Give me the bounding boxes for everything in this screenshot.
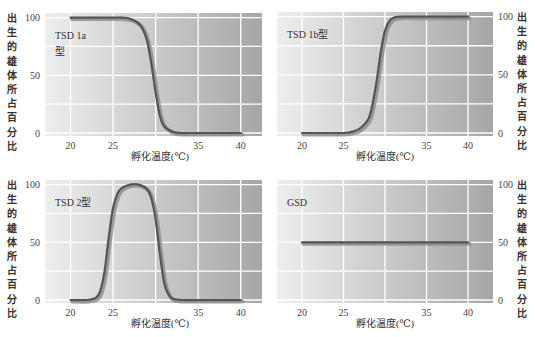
x-tick-label: 20 <box>66 307 76 318</box>
x-tick-label: 20 <box>66 140 76 151</box>
x-axis-label: 孵化温度(℃) <box>356 150 415 162</box>
x-axis-label: 孵化温度(℃) <box>356 317 415 329</box>
y-tick-label: 100 <box>498 11 513 22</box>
x-tick-label: 35 <box>193 307 203 318</box>
chart-panel-1: 05010020253540孵化温度(℃)出生的雄体所占百分比TSD 1a型 <box>6 12 262 162</box>
x-tick-label: 25 <box>338 140 348 151</box>
x-tick-label: 35 <box>193 140 203 151</box>
x-tick-label: 25 <box>108 140 118 151</box>
y-tick-label: 0 <box>35 128 40 139</box>
panel-title: GSD <box>287 197 307 208</box>
x-tick-label: 40 <box>236 140 246 151</box>
x-tick-label: 25 <box>338 307 348 318</box>
sex-determination-charts: 05010020253540孵化温度(℃)出生的雄体所占百分比TSD 1a型05… <box>0 0 535 337</box>
x-tick-label: 35 <box>422 140 432 151</box>
y-axis-label: 出生的雄体所占百分比 <box>6 179 18 319</box>
panel-title: TSD 1b型 <box>287 28 328 40</box>
y-tick-label: 100 <box>25 179 40 190</box>
y-axis-label: 出生的雄体所占百分比 <box>516 11 528 151</box>
y-tick-label: 50 <box>30 237 40 248</box>
y-tick-label: 100 <box>498 179 513 190</box>
y-tick-label: 0 <box>35 295 40 306</box>
x-tick-label: 40 <box>236 307 246 318</box>
x-axis-label: 孵化温度(℃) <box>131 317 190 329</box>
chart-panel-4: 05010020253540孵化温度(℃)出生的雄体所占百分比GSD <box>277 179 528 329</box>
x-tick-label: 25 <box>108 307 118 318</box>
x-tick-label: 35 <box>422 307 432 318</box>
y-tick-label: 0 <box>498 128 503 139</box>
x-tick-label: 40 <box>463 140 473 151</box>
y-tick-label: 50 <box>498 237 508 248</box>
y-tick-label: 100 <box>25 12 40 23</box>
y-tick-label: 50 <box>30 70 40 81</box>
x-axis-label: 孵化温度(℃) <box>131 150 190 162</box>
x-tick-label: 20 <box>297 140 307 151</box>
x-tick-label: 20 <box>297 307 307 318</box>
y-axis-label: 出生的雄体所占百分比 <box>516 179 528 319</box>
chart-panel-2: 05010020253540孵化温度(℃)出生的雄体所占百分比TSD 1b型 <box>277 11 528 162</box>
y-tick-label: 0 <box>498 295 503 306</box>
x-tick-label: 40 <box>463 307 473 318</box>
panel-title: TSD 2型 <box>55 196 91 208</box>
chart-panel-3: 05010020253540孵化温度(℃)出生的雄体所占百分比TSD 2型 <box>6 179 262 329</box>
y-axis-label: 出生的雄体所占百分比 <box>6 12 18 152</box>
y-tick-label: 50 <box>498 69 508 80</box>
